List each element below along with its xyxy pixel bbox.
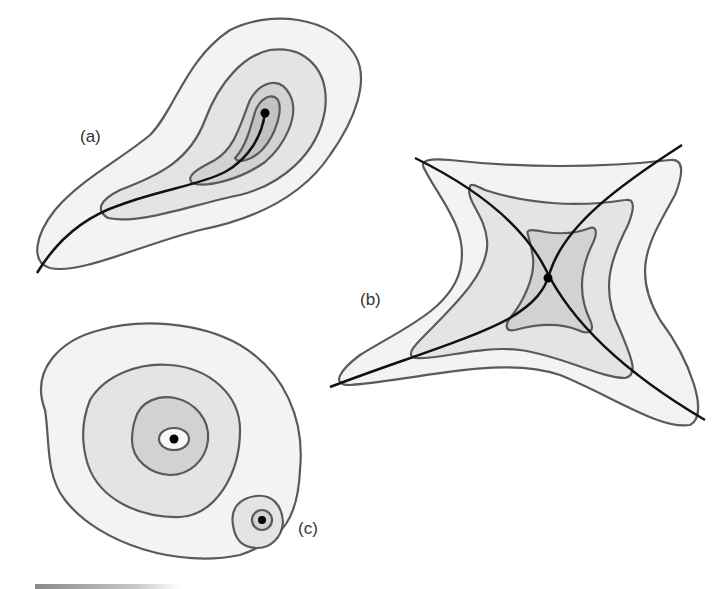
panel-c-center-point xyxy=(170,435,179,444)
panel-a-point xyxy=(261,109,270,118)
panel-c-label: (c) xyxy=(298,519,318,539)
panel-a-label: (a) xyxy=(80,127,101,147)
scan-edge-bar xyxy=(35,584,180,589)
panel-c xyxy=(41,323,301,558)
panel-c-secondary-point xyxy=(258,516,266,524)
panel-b xyxy=(330,145,705,425)
panel-b-point xyxy=(544,274,553,283)
panel-b-contour-2 xyxy=(411,185,633,378)
panel-b-label: (b) xyxy=(360,290,381,310)
